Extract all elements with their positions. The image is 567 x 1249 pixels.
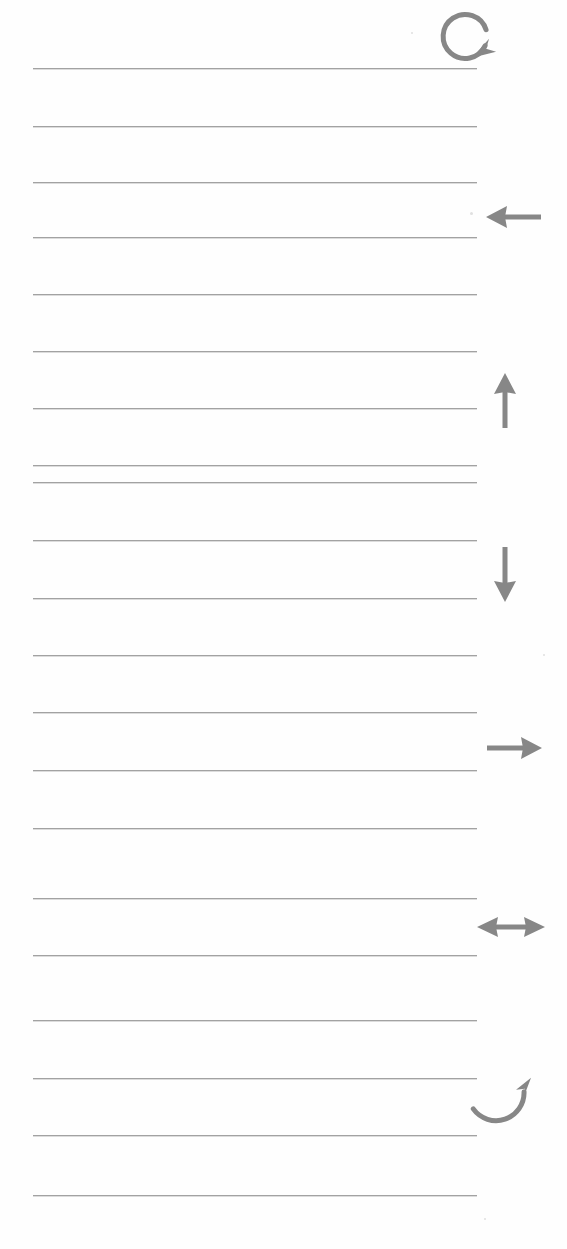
scan-speck [484,1218,486,1220]
arrow-left-icon [485,202,543,232]
ruled-line [33,351,477,352]
ruled-line [33,1195,477,1196]
ruled-line [33,482,477,483]
ruled-line [33,898,477,899]
ruled-line [33,955,477,956]
ruled-line [33,598,477,599]
scan-speck [543,654,545,656]
ruled-line [33,294,477,295]
ruled-line [33,126,477,127]
arrow-up-icon [489,372,521,430]
ruled-line [33,68,477,69]
arrow-down-icon [489,545,521,603]
ruled-line [33,1135,477,1136]
scan-speck [411,32,413,34]
ruled-line [33,655,477,656]
arrow-right-icon [485,733,543,763]
ruled-line [33,712,477,713]
notepad-page [0,0,567,1249]
ruled-line [33,408,477,409]
rotate-clockwise-icon [470,1085,536,1137]
ruled-line [33,540,477,541]
ruled-line [33,770,477,771]
ruled-line [33,1020,477,1021]
ruled-line [33,465,477,466]
ruled-line [33,182,477,183]
ruled-line [33,1078,477,1079]
scan-speck [470,212,473,215]
rotate-counterclockwise-icon [472,8,534,66]
ruled-line [33,828,477,829]
paper-surface [0,0,567,1249]
ruled-line [33,237,477,238]
arrow-left-right-icon [476,912,546,942]
